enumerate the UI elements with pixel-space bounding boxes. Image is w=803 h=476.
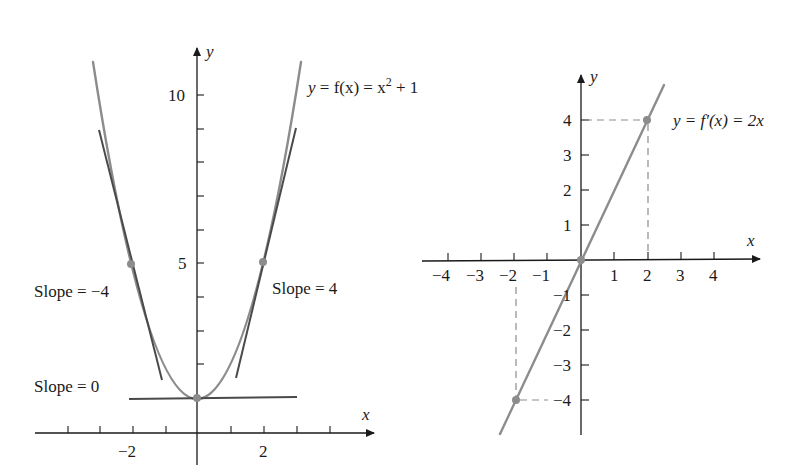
slope-neg4-label: Slope = −4 (34, 282, 109, 301)
point-2-4 (643, 116, 651, 124)
point-2-5 (259, 258, 267, 266)
svg-text:−4: −4 (553, 391, 572, 410)
tangent-line-left (99, 130, 162, 380)
svg-text:4: 4 (709, 266, 718, 285)
tangent-line-right (236, 128, 296, 378)
right-graph: y x y = f′(x) = 2x −4 −3 −2 −1 1 2 3 4 1… (422, 67, 764, 435)
svg-text:−1: −1 (553, 286, 571, 305)
point-0-1 (193, 394, 201, 402)
left-y-tick-10: 10 (168, 86, 185, 105)
left-y-tick-5: 5 (178, 254, 187, 273)
point-neg2-neg4 (512, 396, 520, 404)
tangent-line-zero (129, 397, 297, 399)
svg-text:4: 4 (563, 111, 572, 130)
slope-0-label: Slope = 0 (34, 377, 99, 396)
left-y-ticks (197, 95, 204, 398)
slope-4-label: Slope = 4 (272, 279, 338, 298)
svg-text:−3: −3 (466, 266, 484, 285)
svg-text:1: 1 (610, 266, 619, 285)
left-x-ticks (68, 426, 330, 433)
right-x-axis (422, 259, 760, 261)
point-origin (577, 256, 585, 264)
svg-text:3: 3 (676, 266, 685, 285)
svg-text:−3: −3 (553, 356, 571, 375)
left-x-label: x (361, 405, 370, 424)
figure: y x 10 5 −2 2 y = f(x) = x2 + 1 Slope = … (0, 0, 803, 476)
right-x-label: x (746, 231, 755, 250)
left-y-label: y (204, 42, 214, 61)
svg-text:1: 1 (563, 216, 572, 235)
svg-text:−2: −2 (553, 321, 571, 340)
svg-text:−1: −1 (532, 266, 550, 285)
point-neg2-5 (127, 260, 135, 268)
svg-text:−4: −4 (432, 266, 451, 285)
left-x-tick-2: 2 (259, 442, 268, 461)
left-graph: y x 10 5 −2 2 y = f(x) = x2 + 1 Slope = … (34, 42, 418, 465)
left-x-tick-neg2: −2 (118, 442, 136, 461)
right-y-label: y (588, 67, 598, 86)
derivative-equation-label: y = f′(x) = 2x (671, 111, 764, 130)
svg-text:3: 3 (563, 146, 572, 165)
svg-text:−2: −2 (499, 266, 517, 285)
function-equation-label: y = f(x) = x2 + 1 (306, 75, 418, 97)
svg-text:2: 2 (563, 181, 572, 200)
svg-text:2: 2 (643, 266, 652, 285)
